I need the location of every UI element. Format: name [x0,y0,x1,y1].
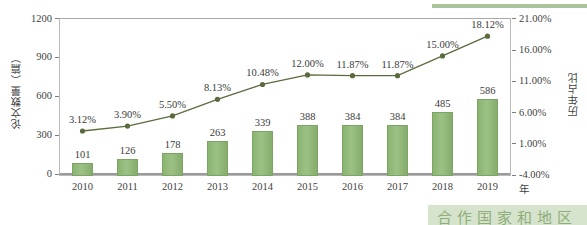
percentage-label-2019: 18.12% [460,19,516,30]
footer-banner: 合作国家和地区 [0,200,587,225]
x-axis-label-2011: 2011 [105,181,150,192]
x-axis-label-2015: 2015 [285,181,330,192]
percentage-label-2017: 11.87% [370,59,426,70]
percentage-label-2014: 10.48% [235,67,291,78]
percentage-marker-2012 [170,113,175,118]
x-axis-label-2017: 2017 [375,181,420,192]
chart-figure: 论文数量（篇） 历年占比 年 1200 900 600 300 0 21.00%… [0,0,587,200]
percentage-label-2012: 5.50% [145,99,201,110]
percentage-marker-2016 [350,73,355,78]
x-axis-label-2016: 2016 [330,181,375,192]
percentage-marker-2018 [440,53,445,58]
percentage-marker-2017 [395,73,400,78]
percentage-label-2011: 3.90% [100,109,156,120]
x-axis-label-2018: 2018 [420,181,465,192]
percentage-marker-2011 [125,123,130,128]
x-axis-label-2019: 2019 [465,181,510,192]
percentage-marker-2013 [215,97,220,102]
percentage-label-2013: 8.13% [190,82,246,93]
x-axis-label-2012: 2012 [150,181,195,192]
x-axis-label-2013: 2013 [195,181,240,192]
percentage-label-2018: 15.00% [415,39,471,50]
percentage-marker-2019 [485,34,490,39]
x-axis-label-2010: 2010 [60,181,105,192]
percentage-marker-2015 [305,72,310,77]
percentage-marker-2014 [260,82,265,87]
percentage-marker-2010 [80,128,85,133]
footer-caption: 合作国家和地区 [437,206,577,225]
x-axis-label-2014: 2014 [240,181,285,192]
